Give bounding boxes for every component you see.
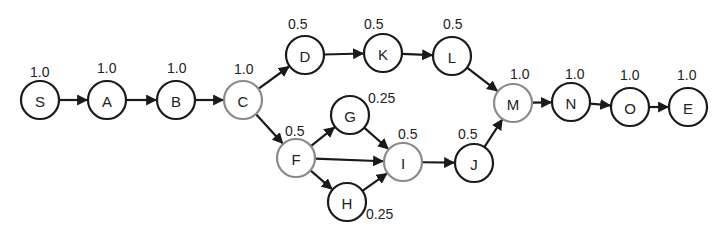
node-label: J: [470, 156, 478, 173]
node-label: D: [300, 48, 311, 65]
edge-c-to-f: [256, 114, 283, 143]
node-b: B: [157, 81, 195, 119]
node-weight-m: 1.0: [510, 66, 530, 82]
node-weight-j: 0.5: [458, 126, 478, 142]
node-c: C: [224, 81, 262, 119]
node-e: E: [669, 88, 707, 126]
edge-h-to-i: [362, 174, 386, 191]
node-weight-k: 0.5: [364, 16, 384, 32]
node-label: F: [291, 151, 300, 168]
edge-k-to-l: [402, 54, 432, 55]
edge-j-to-m: [484, 120, 502, 147]
node-weight-l: 0.5: [443, 16, 463, 32]
node-label: B: [171, 93, 181, 110]
node-k: K: [364, 34, 402, 72]
node-label: M: [507, 96, 520, 113]
node-label: S: [35, 93, 45, 110]
node-weight-a: 1.0: [97, 60, 117, 76]
flow-graph-diagram: SABCDKLFGHIJMNOE 1.01.01.01.00.50.50.50.…: [0, 0, 726, 235]
node-a: A: [88, 81, 126, 119]
node-f: F: [277, 139, 315, 177]
node-s: S: [21, 81, 59, 119]
node-g: G: [331, 96, 369, 134]
node-label: E: [683, 100, 693, 117]
node-label: G: [344, 108, 356, 125]
node-o: O: [611, 88, 649, 126]
edge-n-to-o: [590, 104, 610, 106]
graph-svg: SABCDKLFGHIJMNOE 1.01.01.01.00.50.50.50.…: [0, 0, 726, 235]
node-j: J: [455, 144, 493, 182]
node-l: L: [433, 37, 471, 75]
node-weight-f: 0.5: [285, 123, 305, 139]
edge-f-to-i: [315, 159, 383, 162]
node-weight-e: 1.0: [677, 67, 697, 83]
edge-l-to-m: [467, 68, 497, 91]
node-i: I: [384, 143, 422, 181]
node-weight-n: 1.0: [565, 66, 585, 82]
node-m: M: [494, 84, 532, 122]
edge-f-to-g: [311, 127, 334, 146]
nodes-layer: SABCDKLFGHIJMNOE: [21, 34, 707, 221]
node-label: C: [238, 93, 249, 110]
node-label: I: [401, 155, 405, 172]
edge-d-to-k: [324, 54, 363, 55]
node-h: H: [328, 183, 366, 221]
edge-g-to-i: [364, 128, 388, 149]
node-weight-i: 0.5: [398, 126, 418, 142]
node-d: D: [286, 36, 324, 74]
node-weight-g: 0.25: [368, 90, 395, 106]
node-label: L: [448, 49, 456, 66]
node-n: N: [552, 83, 590, 121]
node-weight-s: 1.0: [30, 64, 50, 80]
edge-c-to-d: [258, 67, 288, 89]
node-label: H: [342, 195, 353, 212]
node-label: N: [566, 95, 577, 112]
node-weight-c: 1.0: [234, 61, 254, 77]
node-label: A: [102, 93, 112, 110]
node-label: O: [624, 100, 636, 117]
node-weight-b: 1.0: [167, 60, 187, 76]
node-weight-d: 0.5: [288, 16, 308, 32]
node-label: K: [378, 46, 388, 63]
edge-f-to-h: [310, 170, 331, 189]
node-weight-o: 1.0: [620, 67, 640, 83]
node-weight-h: 0.25: [366, 206, 393, 222]
